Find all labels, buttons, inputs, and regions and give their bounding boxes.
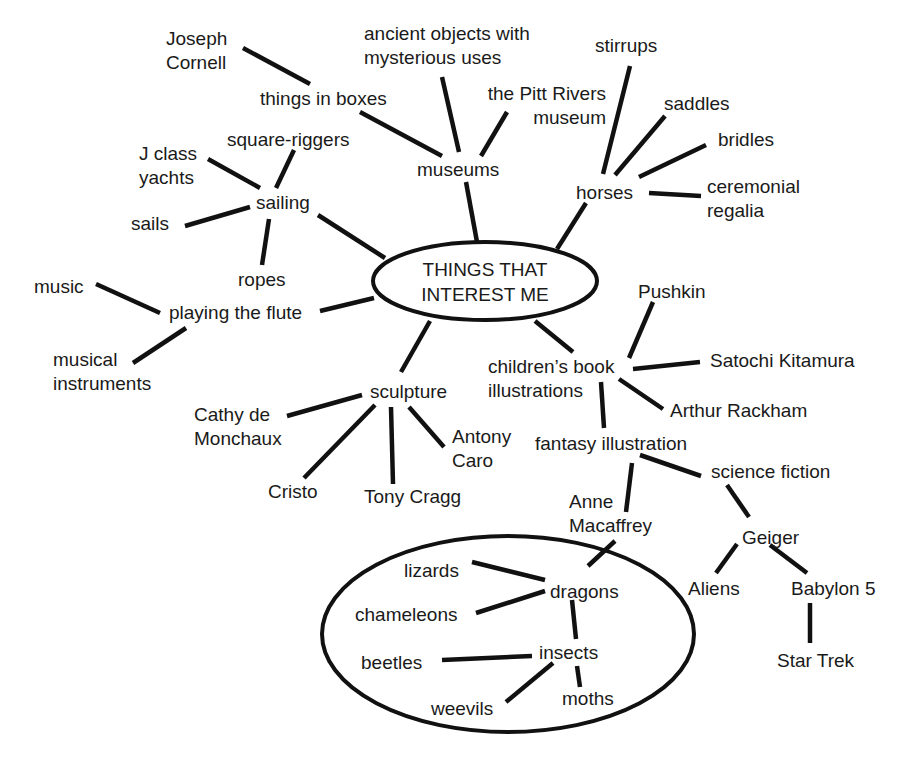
node-moths: moths xyxy=(562,687,614,711)
edge-things-in-boxes-to-museums xyxy=(360,112,442,156)
node-label-line: moths xyxy=(562,687,614,711)
node-lizards: lizards xyxy=(404,559,459,583)
edge-horses-to-center xyxy=(557,203,586,249)
node-stirrups: stirrups xyxy=(595,34,657,58)
edge-sculpture-to-cathy-de-monchaux xyxy=(287,395,362,416)
edge-ancient-objects-to-museums xyxy=(442,77,459,152)
node-center: THINGS THATINTEREST ME xyxy=(388,257,582,307)
node-label-line: museums xyxy=(417,158,499,182)
edge-geiger-to-aliens xyxy=(716,544,737,573)
edge-childrens-book-illustrations-to-satochi-kitamura xyxy=(633,362,700,369)
node-musical-instruments: musicalinstruments xyxy=(53,348,151,396)
node-label-line: Satochi Kitamura xyxy=(710,349,855,373)
edge-chameleons-to-dragons xyxy=(476,591,545,613)
node-label-line: things in boxes xyxy=(260,87,387,111)
node-label-line: ceremonial xyxy=(707,175,800,199)
node-bridles: bridles xyxy=(718,128,774,152)
node-label-line: mysterious uses xyxy=(364,46,530,70)
node-saddles: saddles xyxy=(664,92,730,116)
edge-stirrups-to-horses xyxy=(603,66,630,174)
node-insects: insects xyxy=(539,641,598,665)
edge-science-fiction-to-geiger xyxy=(727,485,749,517)
node-chameleons: chameleons xyxy=(355,603,457,627)
edge-childrens-book-illustrations-to-arthur-rackham xyxy=(619,379,663,409)
node-label-line: square-riggers xyxy=(227,128,350,152)
node-label-line: horses xyxy=(576,181,633,205)
node-childrens-book-illustrations: children’s bookillustrations xyxy=(488,355,614,403)
node-pushkin: Pushkin xyxy=(638,280,706,304)
node-label-line: musical xyxy=(53,348,151,372)
edge-museums-to-center xyxy=(466,182,477,242)
node-playing-the-flute: playing the flute xyxy=(169,301,302,325)
node-label-line: ropes xyxy=(238,268,286,292)
edge-sailing-to-ropes xyxy=(262,219,269,265)
edge-pushkin-to-childrens-book-illustrations xyxy=(629,302,653,358)
edge-center-to-childrens-book-illustrations xyxy=(535,321,573,352)
node-label-line: Cathy de xyxy=(194,403,282,427)
node-satochi-kitamura: Satochi Kitamura xyxy=(710,349,855,373)
edge-bridles-to-horses xyxy=(639,145,706,177)
node-ropes: ropes xyxy=(238,268,286,292)
node-horses: horses xyxy=(576,181,633,205)
node-star-trek: Star Trek xyxy=(777,649,854,673)
node-label-line: Pushkin xyxy=(638,280,706,304)
edge-j-class-yachts-to-sailing xyxy=(208,159,260,188)
node-label-line: Macaffrey xyxy=(569,514,652,538)
edge-lizards-to-dragons xyxy=(472,562,545,580)
node-label-line: children’s book xyxy=(488,355,614,379)
node-label-line: INTEREST ME xyxy=(388,282,582,307)
node-geiger: Geiger xyxy=(742,526,799,550)
edge-sculpture-to-antony-caro xyxy=(409,407,444,447)
node-label-line: lizards xyxy=(404,559,459,583)
node-dragons: dragons xyxy=(550,580,619,604)
node-label-line: Joseph xyxy=(166,27,227,51)
node-cristo: Cristo xyxy=(268,480,318,504)
edge-insects-to-weevils xyxy=(506,663,553,702)
node-label-line: J class xyxy=(139,142,197,166)
node-sails: sails xyxy=(131,212,169,236)
node-square-riggers: square-riggers xyxy=(227,128,350,152)
edge-center-to-sculpture xyxy=(401,321,430,372)
node-label-line: Babylon 5 xyxy=(791,577,876,601)
node-label-line: science fiction xyxy=(711,460,830,484)
node-label-line: Arthur Rackham xyxy=(670,399,807,423)
node-j-class-yachts: J classyachts xyxy=(139,142,197,190)
node-label-line: chameleons xyxy=(355,603,457,627)
node-ancient-objects: ancient objects withmysterious uses xyxy=(364,22,530,70)
edge-ceremonial-regalia-to-horses xyxy=(649,193,701,196)
node-label-line: illustrations xyxy=(488,379,614,403)
edge-music-to-playing-the-flute xyxy=(96,284,160,313)
node-antony-caro: AntonyCaro xyxy=(452,425,511,473)
node-label-line: playing the flute xyxy=(169,301,302,325)
node-label-line: Caro xyxy=(452,449,511,473)
edge-sculpture-to-cristo xyxy=(304,405,375,478)
node-label-line: sculpture xyxy=(370,380,447,404)
node-sculpture: sculpture xyxy=(370,380,447,404)
node-label-line: Aliens xyxy=(688,577,740,601)
node-label-line: beetles xyxy=(361,651,422,675)
node-label-line: the Pitt Rivers xyxy=(468,82,606,106)
node-joseph-cornell: JosephCornell xyxy=(166,27,227,75)
edge-playing-the-flute-to-center xyxy=(320,298,374,311)
node-museums: museums xyxy=(417,158,499,182)
node-music: music xyxy=(34,275,84,299)
edge-square-riggers-to-sailing xyxy=(276,150,294,188)
node-label-line: Monchaux xyxy=(194,427,282,451)
node-label-line: Antony xyxy=(452,425,511,449)
node-label-line: instruments xyxy=(53,372,151,396)
node-things-in-boxes: things in boxes xyxy=(260,87,387,111)
edge-beetles-to-insects xyxy=(442,656,532,660)
node-label-line: Star Trek xyxy=(777,649,854,673)
node-label-line: saddles xyxy=(664,92,730,116)
node-ceremonial-regalia: ceremonialregalia xyxy=(707,175,800,223)
node-science-fiction: science fiction xyxy=(711,460,830,484)
node-label-line: stirrups xyxy=(595,34,657,58)
node-label-line: bridles xyxy=(718,128,774,152)
edge-fantasy-illustration-to-science-fiction xyxy=(640,455,701,476)
node-label-line: music xyxy=(34,275,84,299)
node-cathy-de-monchaux: Cathy deMonchaux xyxy=(194,403,282,451)
node-label-line: Tony Cragg xyxy=(364,485,461,509)
node-label-line: Cristo xyxy=(268,480,318,504)
node-label-line: ancient objects with xyxy=(364,22,530,46)
node-label-line: weevils xyxy=(431,697,493,721)
